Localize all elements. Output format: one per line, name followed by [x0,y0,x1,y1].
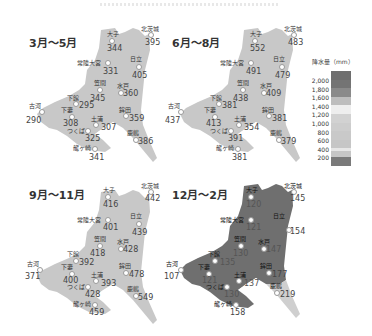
station-value-shimodate: 135 [220,258,235,267]
station-value-hokota: 359 [129,114,144,123]
station-label-kashima: 鹿嶋 [127,285,139,292]
station-value-hitachiomiya: 491 [246,67,261,76]
station-label-kashima: 鹿嶋 [270,129,282,136]
station-label-hitachi: 日立 [130,212,142,219]
station-value-daigo: 416 [103,200,118,209]
legend-tick: 800 [300,129,329,138]
station-label-shimotsuma: 下妻 [204,106,216,113]
legend-swatch [331,157,351,166]
station-label-tsukuba: つくば [67,283,85,290]
station-label-ryugasaki: 龍ヶ崎 [216,144,234,151]
station-value-kasama: 130 [233,249,248,258]
station-label-hokota: 鉾田 [119,262,131,269]
station-label-hitachiomiya: 常陸大宮 [220,59,244,66]
station-marker [93,278,99,284]
station-label-hokota: 鉾田 [119,106,131,113]
station-value-hitachi: 154 [290,227,305,236]
station-label-ryugasaki: 龍ヶ崎 [73,300,91,307]
station-marker [136,221,142,227]
station-label-tsukuba: つくば [67,127,85,134]
station-label-kasama: 笠間 [94,235,106,242]
station-label-ryugasaki: 龍ヶ崎 [73,144,91,151]
station-value-shimodate: 392 [79,258,94,267]
station-label-shimodate: 下館 [208,250,220,257]
station-marker [105,60,111,66]
station-value-kashima: 219 [280,290,295,299]
station-label-tsukuba: つくば [206,283,224,290]
station-value-hitachiomiya: 331 [103,67,118,76]
station-marker [212,258,218,264]
station-value-kashima: 379 [281,137,296,146]
station-label-daigo: 大子 [250,30,262,37]
station-label-hitachi: 日立 [130,55,142,62]
station-value-hitachiomiya: 401 [103,223,118,232]
legend-title: 降水量（mm） [312,57,370,66]
station-label-shimodate: 下館 [210,94,222,101]
station-label-shimodate: 下館 [67,94,79,101]
station-label-koga: 古河 [166,260,178,267]
station-label-kasama: 笠間 [234,235,246,242]
station-value-ryugasaki: 158 [230,308,245,317]
station-label-shimotsuma: 下妻 [61,263,73,270]
station-label-koga: 古河 [27,260,39,267]
station-label-daigo: 大子 [103,186,115,193]
station-label-kitaibaraki: 北茨城 [284,25,302,32]
station-value-daigo: 344 [107,44,122,53]
station-value-kashima: 549 [138,293,153,302]
legend-swatch [331,105,351,114]
station-label-kitaibaraki: 北茨城 [141,25,159,32]
station-marker [235,146,241,152]
legend-tick: 400 [300,146,329,155]
station-label-mito: 水戸 [117,82,129,89]
legend-swatch [331,71,351,80]
legend-tick: 1,200 [300,111,329,120]
station-marker [136,64,142,70]
station-label-hokota: 鉾田 [262,106,274,113]
station-label-koga: 古河 [168,102,180,109]
legend-swatch [331,80,351,89]
station-marker [178,109,184,115]
station-value-tsuchiura: 307 [101,123,116,132]
station-label-tsuchiura: 土浦 [234,115,246,122]
season-title: 12月〜2月 [172,186,228,202]
station-marker [97,87,103,93]
map-panel-winter: 12月〜2月 大子 120 北茨城 145 常陸大宮 121 日立 154 笠間… [158,172,328,332]
legend-tick: 200 [300,154,329,163]
station-label-tsuchiura: 土浦 [91,115,103,122]
station-label-hitachi: 日立 [273,212,285,219]
station-label-kasama: 笠間 [94,79,106,86]
station-marker [93,122,99,128]
station-marker [236,122,242,128]
legend-swatch [331,97,351,106]
station-value-daigo: 552 [250,44,265,53]
station-label-kashima: 鹿嶋 [127,129,139,136]
station-label-tsuchiura: 土浦 [91,271,103,278]
top-dotted-divider [100,3,280,6]
station-value-tsukuba: 325 [85,134,100,143]
station-value-ryugasaki: 341 [89,153,104,162]
station-value-hitachiomiya: 121 [246,223,261,232]
station-value-ryugasaki: 381 [232,153,247,162]
station-value-koga: 437 [165,116,180,125]
legend-swatch [331,88,351,97]
station-value-tsukuba: 428 [85,290,100,299]
legend-tick: 1,000 [300,120,329,129]
station-value-koga: 107 [164,272,179,281]
station-marker [279,64,285,70]
legend-tick: 600 [300,137,329,146]
station-value-tsukuba: 391 [228,134,243,143]
station-label-tsukuba: つくば [210,127,228,134]
station-label-koga: 古河 [29,102,41,109]
station-value-tsukuba: 130 [224,290,239,299]
legend-colorbar [331,71,351,166]
station-label-kitaibaraki: 北茨城 [141,182,159,189]
legend-swatch [331,114,351,123]
station-value-tsuchiura: 393 [101,279,116,288]
station-value-kitaibaraki: 483 [288,38,303,47]
station-value-mito: 428 [123,245,138,254]
season-title: 6月〜8月 [172,34,220,50]
station-value-kasama: 418 [90,249,105,258]
station-value-kashima: 386 [138,137,153,146]
station-label-hitachi: 日立 [273,55,285,62]
station-label-mito: 水戸 [260,82,272,89]
